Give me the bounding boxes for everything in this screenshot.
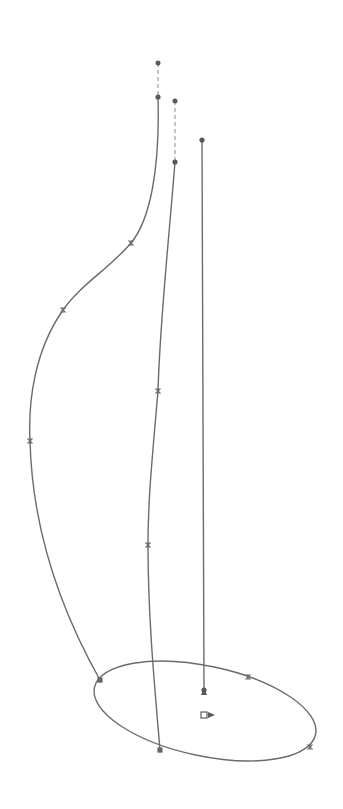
control-point-spline-middle[interactable] bbox=[156, 388, 161, 394]
middle-extension-endpoint[interactable] bbox=[173, 99, 178, 104]
base-ellipse-profile[interactable] bbox=[85, 643, 325, 778]
control-point-spline-outer[interactable] bbox=[28, 438, 33, 444]
control-point-spline-outer[interactable] bbox=[61, 307, 66, 313]
center-guide-line[interactable] bbox=[202, 140, 204, 690]
sketch-canvas[interactable] bbox=[0, 0, 343, 809]
control-points bbox=[28, 94, 313, 753]
control-point-spline-middle[interactable] bbox=[146, 542, 151, 548]
outer-extension-endpoint[interactable] bbox=[156, 61, 161, 66]
control-point-spline-outer[interactable] bbox=[129, 240, 134, 246]
outer-guide-spline[interactable] bbox=[30, 97, 159, 680]
origin-icon bbox=[201, 688, 215, 718]
endpoint-line-center[interactable] bbox=[199, 137, 204, 142]
endpoint-spline-outer[interactable] bbox=[155, 94, 160, 99]
endpoint-spline-middle[interactable] bbox=[172, 159, 177, 164]
